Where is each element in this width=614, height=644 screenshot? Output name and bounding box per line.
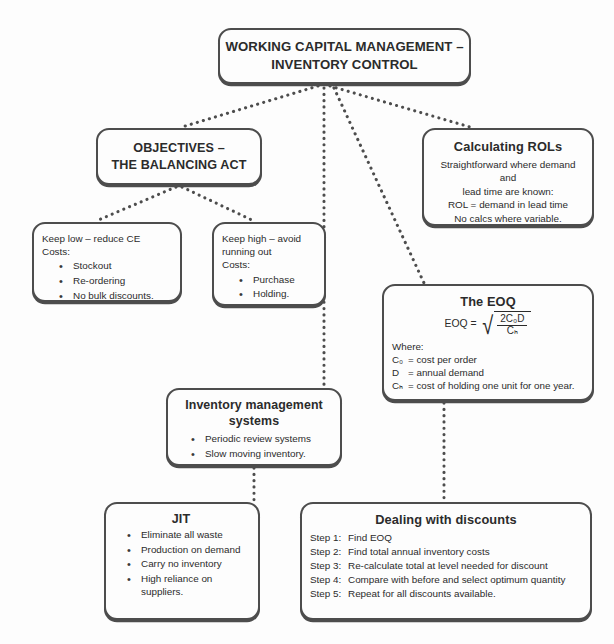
node-body: Where: C₀= cost per order D= annual dema… [392,340,584,393]
connector-objectives-to-keeplow [96,187,176,221]
node-the-eoq[interactable]: The EOQ EOQ = √ 2C₀D Cₕ Where: C₀= cost … [382,284,594,401]
node-title: Calculating ROLs [431,139,585,154]
list-item: Slow moving inventory. [191,448,334,461]
list-item: No bulk discounts. [59,290,174,303]
keephigh-line-1: Keep high – avoid [222,232,319,245]
node-dealing-with-discounts[interactable]: Dealing with discounts Step 1: Find EOQ … [300,502,592,620]
root-title-line-2: INVENTORY CONTROL [271,57,418,72]
node-title: Dealing with discounts [310,512,582,527]
keeplow-bullet-list: Stockout Re-ordering No bulk discounts. [42,260,174,302]
jit-bullet-list: Eliminate all waste Production on demand… [110,529,252,598]
eoq-definition-symbol: D [392,366,408,379]
list-item: Stockout [59,260,174,273]
keeplow-line-2: Costs: [42,245,174,258]
ims-title-line-1: Inventory management [185,398,323,412]
node-title: Inventory management systems [174,398,334,429]
list-item: Step 1: Find EOQ [310,531,582,545]
objectives-title-line-1: OBJECTIVES – [133,141,224,155]
eoq-denominator: Cₕ [507,324,518,336]
node-title: WORKING CAPITAL MANAGEMENT – INVENTORY C… [225,38,463,73]
step-label: Step 3: [310,559,348,573]
eoq-formula-lhs: EOQ = [445,318,477,329]
list-item: Re-ordering [59,275,174,288]
eoq-definition-symbol: Cₕ [392,379,408,392]
rols-line-1: Straightforward where demand and [431,158,585,185]
list-item: Step 2: Find total annual inventory cost… [310,545,582,559]
list-item: Eliminate all waste [127,529,252,542]
step-label: Step 1: [310,531,348,545]
node-title: OBJECTIVES – THE BALANCING ACT [112,140,247,174]
eoq-where-label: Where: [392,340,584,353]
keephigh-line-2: running out [222,245,319,258]
radical-sign: √ [482,311,493,335]
eoq-formula: EOQ = √ 2C₀D Cₕ [392,311,584,335]
objectives-title-line-2: THE BALANCING ACT [112,158,247,172]
eoq-definition-symbol: C₀ [392,353,408,366]
node-objectives-balancing-act[interactable]: OBJECTIVES – THE BALANCING ACT [96,128,262,185]
eoq-definition-text: = cost of holding one unit for one year. [408,380,574,391]
keephigh-line-3: Costs: [222,258,319,271]
rols-line-2: lead time are known: [431,185,585,198]
step-label: Step 4: [310,573,348,587]
node-keep-high[interactable]: Keep high – avoid running out Costs: Pur… [212,222,326,306]
list-item: Production on demand [127,544,252,557]
rols-line-4: No calcs where variable. [431,212,585,225]
ims-bullet-list: Periodic review systems Slow moving inve… [174,433,334,460]
eoq-definition-text: = annual demand [408,367,484,378]
step-label: Step 5: [310,587,348,601]
keeplow-line-1: Keep low – reduce CE [42,232,174,245]
node-jit[interactable]: JIT Eliminate all waste Production on de… [104,502,260,620]
list-item: Step 4: Compare with before and select o… [310,573,582,587]
step-label: Step 2: [310,545,348,559]
step-text: Repeat for all discounts available. [348,587,496,601]
eoq-definition-row: D= annual demand [392,366,584,379]
list-item: Step 3: Re-calculate total at level need… [310,559,582,573]
eoq-definition-text: = cost per order [408,354,477,365]
step-text: Re-calculate total at level needed for d… [348,559,548,573]
keephigh-bullet-list: Purchase Holding. [222,274,319,301]
node-title: JIT [110,512,252,526]
node-body: Keep high – avoid running out Costs: Pur… [222,232,319,301]
list-item: Periodic review systems [191,433,334,446]
list-item: Carry no inventory [127,558,252,571]
eoq-definition-row: C₀= cost per order [392,353,584,366]
list-item: Purchase [239,274,319,287]
mindmap-canvas: WORKING CAPITAL MANAGEMENT – INVENTORY C… [0,0,614,644]
square-root-icon: √ 2C₀D Cₕ [481,311,532,335]
list-item: High reliance on suppliers. [127,573,252,598]
node-calculating-rols[interactable]: Calculating ROLs Straightforward where d… [422,128,594,226]
connector-root-to-objectives [182,86,318,127]
step-text: Compare with before and select optimum q… [348,573,565,587]
node-title: The EOQ [392,294,584,309]
list-item: Holding. [239,288,319,301]
discount-steps-list: Step 1: Find EOQ Step 2: Find total annu… [310,531,582,601]
node-inventory-management-systems[interactable]: Inventory management systems Periodic re… [166,388,342,466]
list-item: Step 5: Repeat for all discounts availab… [310,587,582,601]
connector-root-to-eoq [334,88,424,283]
step-text: Find EOQ [348,531,392,545]
node-body: Straightforward where demand and lead ti… [431,158,585,225]
step-text: Find total annual inventory costs [348,545,490,559]
root-title-line-1: WORKING CAPITAL MANAGEMENT – [225,39,463,54]
eoq-definition-row: Cₕ= cost of holding one unit for one yea… [392,379,584,392]
ims-title-line-2: systems [229,414,279,428]
node-working-capital-management[interactable]: WORKING CAPITAL MANAGEMENT – INVENTORY C… [218,28,471,84]
node-body: Keep low – reduce CE Costs: Stockout Re-… [42,232,174,302]
rols-line-3: ROL = demand in lead time [431,198,585,211]
node-keep-low[interactable]: Keep low – reduce CE Costs: Stockout Re-… [32,222,182,302]
connector-objectives-to-keephigh [182,187,254,221]
eoq-fraction: 2C₀D Cₕ [494,311,531,335]
connector-root-to-rols [330,86,470,127]
